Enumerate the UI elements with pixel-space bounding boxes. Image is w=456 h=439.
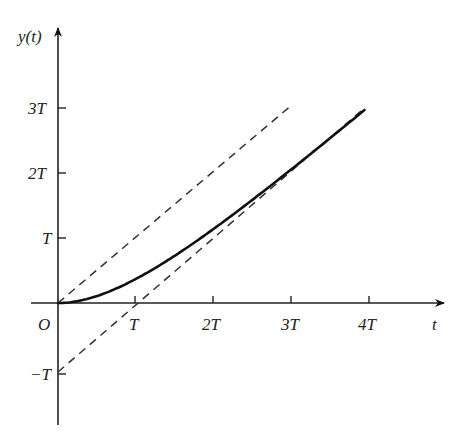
x-ticks xyxy=(135,296,369,303)
ramp-input-line xyxy=(58,104,293,303)
axes xyxy=(31,28,444,425)
y-ticks xyxy=(58,108,66,374)
x-tick-label-4: 4T xyxy=(358,315,378,334)
response-curve xyxy=(58,110,365,303)
origin-label: O xyxy=(38,315,50,334)
x-tick-label-2: 2T xyxy=(202,315,222,334)
y-axis-label: y(t) xyxy=(16,27,42,46)
x-axis-label: t xyxy=(432,315,438,334)
y-tick-label-neg1: −T xyxy=(30,365,52,384)
y-tick-label-2: 2T xyxy=(28,164,48,183)
x-tick-label-1: T xyxy=(129,315,140,334)
y-tick-label-1: T xyxy=(42,229,53,248)
y-tick-label-3: 3T xyxy=(27,99,48,118)
ramp-response-chart: y(t) t O T 2T 3T 4T 3T 2T T −T xyxy=(0,0,456,439)
x-tick-label-3: 3T xyxy=(280,315,301,334)
